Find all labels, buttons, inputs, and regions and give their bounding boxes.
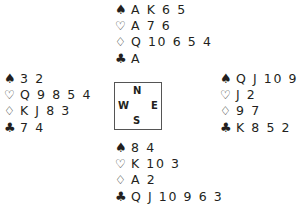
spade-icon: ♠ xyxy=(220,71,236,87)
east-hand: ♠ Q J 10 9 7 ♡ J 2 ♢ 9 7 ♣ K 8 5 2 xyxy=(220,71,303,136)
compass-east: E xyxy=(151,100,158,111)
west-hearts-row: ♡ Q 9 8 5 4 xyxy=(4,87,92,103)
club-icon: ♣ xyxy=(220,120,236,136)
east-clubs: K 8 5 2 xyxy=(236,120,291,136)
diamond-icon: ♢ xyxy=(115,172,131,188)
west-spades: 3 2 xyxy=(20,71,45,87)
west-spades-row: ♠ 3 2 xyxy=(4,71,92,87)
south-hearts-row: ♡ K 10 3 xyxy=(115,156,223,172)
east-spades-row: ♠ Q J 10 9 7 xyxy=(220,71,303,87)
west-hearts: Q 9 8 5 4 xyxy=(20,87,92,103)
diamond-icon: ♢ xyxy=(115,34,131,50)
south-hearts: K 10 3 xyxy=(131,156,181,172)
north-hearts-row: ♡ A 7 6 xyxy=(115,18,213,34)
compass-north: N xyxy=(133,85,141,96)
south-spades: 8 4 xyxy=(131,140,156,156)
north-hearts: A 7 6 xyxy=(131,18,171,34)
north-diamonds: Q 10 6 5 4 xyxy=(131,34,213,50)
west-hand: ♠ 3 2 ♡ Q 9 8 5 4 ♢ K J 8 3 ♣ 7 4 xyxy=(4,71,92,136)
north-spades-row: ♠ A K 6 5 xyxy=(115,2,213,18)
heart-icon: ♡ xyxy=(4,87,20,103)
east-spades: Q J 10 9 7 xyxy=(236,71,303,87)
spade-icon: ♠ xyxy=(115,2,131,18)
spade-icon: ♠ xyxy=(4,71,20,87)
compass-west: W xyxy=(118,100,129,111)
south-clubs: Q J 10 9 6 3 xyxy=(131,189,223,205)
west-diamonds-row: ♢ K J 8 3 xyxy=(4,103,92,119)
south-spades-row: ♠ 8 4 xyxy=(115,140,223,156)
north-hand: ♠ A K 6 5 ♡ A 7 6 ♢ Q 10 6 5 4 ♣ A xyxy=(115,2,213,67)
north-clubs-row: ♣ A xyxy=(115,51,213,67)
east-clubs-row: ♣ K 8 5 2 xyxy=(220,120,303,136)
diamond-icon: ♢ xyxy=(4,103,20,119)
east-diamonds: 9 7 xyxy=(236,103,261,119)
north-spades: A K 6 5 xyxy=(131,2,187,18)
heart-icon: ♡ xyxy=(220,87,236,103)
compass-south: S xyxy=(133,115,140,126)
south-hand: ♠ 8 4 ♡ K 10 3 ♢ A 2 ♣ Q J 10 9 6 3 xyxy=(115,140,223,205)
west-clubs-row: ♣ 7 4 xyxy=(4,120,92,136)
east-hearts-row: ♡ J 2 xyxy=(220,87,303,103)
north-clubs: A xyxy=(131,51,141,67)
heart-icon: ♡ xyxy=(115,18,131,34)
south-diamonds: A 2 xyxy=(131,172,156,188)
diamond-icon: ♢ xyxy=(220,103,236,119)
spade-icon: ♠ xyxy=(115,140,131,156)
club-icon: ♣ xyxy=(115,51,131,67)
west-clubs: 7 4 xyxy=(20,120,45,136)
west-diamonds: K J 8 3 xyxy=(20,103,71,119)
east-hearts: J 2 xyxy=(236,87,256,103)
north-diamonds-row: ♢ Q 10 6 5 4 xyxy=(115,34,213,50)
south-clubs-row: ♣ Q J 10 9 6 3 xyxy=(115,189,223,205)
heart-icon: ♡ xyxy=(115,156,131,172)
club-icon: ♣ xyxy=(4,120,20,136)
club-icon: ♣ xyxy=(115,189,131,205)
south-diamonds-row: ♢ A 2 xyxy=(115,172,223,188)
compass-box: N W E S xyxy=(114,82,162,130)
east-diamonds-row: ♢ 9 7 xyxy=(220,103,303,119)
